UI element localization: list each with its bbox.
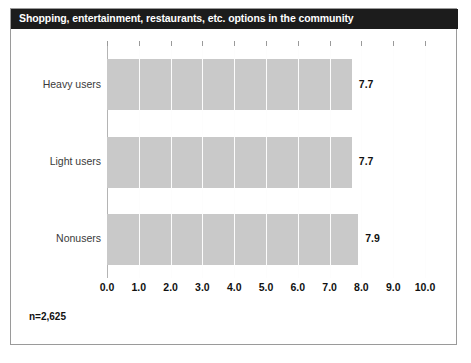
x-tick-label-2.0: 2.0	[163, 281, 178, 293]
bar-heavy-users	[107, 59, 352, 110]
bar-nonusers	[107, 214, 358, 265]
x-tick-label-7.0: 7.0	[322, 281, 337, 293]
gridline-overlay-5.0	[266, 46, 267, 278]
sample-size-annotation: n=2,625	[29, 311, 66, 322]
x-tick-label-1.0: 1.0	[131, 281, 146, 293]
x-tick-label-8.0: 8.0	[354, 281, 369, 293]
x-tick-label-0.0: 0.0	[100, 281, 115, 293]
y-axis-category-labels: Heavy usersLight usersNonusers	[11, 46, 101, 278]
bar-value-label: 7.7	[359, 155, 374, 167]
gridline-overlay-1.0	[139, 46, 140, 278]
plot-area: 7.77.77.9	[107, 46, 425, 278]
gridline-overlay-6.0	[298, 46, 299, 278]
x-axis-tick-labels: 0.01.02.03.04.05.06.07.08.09.010.0	[107, 281, 447, 297]
gridline-overlay-4.0	[234, 46, 235, 278]
x-tick-label-6.0: 6.0	[290, 281, 305, 293]
x-tick-label-4.0: 4.0	[227, 281, 242, 293]
x-tick-label-3.0: 3.0	[195, 281, 210, 293]
gridline-overlay-9.0	[393, 46, 394, 278]
chart-title: Shopping, entertainment, restaurants, et…	[19, 12, 354, 24]
x-tick-label-5.0: 5.0	[259, 281, 274, 293]
chart-title-bar: Shopping, entertainment, restaurants, et…	[11, 9, 458, 29]
gridline-overlay-7.0	[330, 46, 331, 278]
chart-frame: Shopping, entertainment, restaurants, et…	[10, 8, 457, 345]
category-label-light-users: Light users	[50, 155, 101, 167]
tickmark-0.0	[107, 41, 108, 46]
category-label-nonusers: Nonusers	[56, 232, 101, 244]
x-tick-label-9.0: 9.0	[386, 281, 401, 293]
gridline-overlay-2.0	[171, 46, 172, 278]
gridline-overlay-3.0	[202, 46, 203, 278]
category-label-heavy-users: Heavy users	[43, 78, 101, 90]
bar-light-users	[107, 137, 352, 188]
x-tick-label-10.0: 10.0	[415, 281, 435, 293]
bar-value-label: 7.9	[365, 232, 380, 244]
gridline-overlay-10.0	[425, 46, 426, 278]
bar-value-label: 7.7	[359, 78, 374, 90]
